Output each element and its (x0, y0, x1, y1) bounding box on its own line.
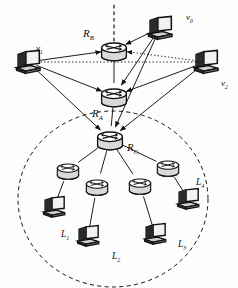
host-icon-l3[interactable] (145, 224, 166, 245)
link-v1-RB (37, 52, 101, 61)
router-icon-lr4[interactable] (157, 161, 178, 176)
link-LR2-L2 (90, 198, 95, 227)
link-LR3-L3 (144, 196, 153, 225)
host-label-l3: L3 (178, 240, 186, 252)
node-layer (16, 16, 218, 246)
host-label-l4: L4 (196, 178, 204, 190)
router-icon-ra[interactable] (102, 89, 127, 107)
router-label-ra: RA (92, 108, 103, 122)
router-icon-lr3[interactable] (129, 179, 150, 194)
link-RC-LR2 (100, 151, 106, 174)
host-icon-l4[interactable] (178, 189, 199, 210)
router-label-rc: RC (127, 142, 138, 156)
link-v0-RA (121, 35, 155, 85)
link-LR1-L1 (57, 181, 64, 198)
router-label-rb: RB (83, 28, 94, 42)
router-icon-lr1[interactable] (57, 164, 78, 179)
host-icon-v0[interactable] (148, 16, 172, 39)
link-LR4-L4 (174, 177, 183, 191)
host-label-v2: v2 (221, 79, 228, 90)
link-v2-RB (127, 52, 197, 61)
host-icon-l1[interactable] (44, 197, 65, 218)
router-icon-rb[interactable] (102, 43, 127, 61)
router-icon-rc[interactable] (98, 132, 123, 150)
link-v2-RC (120, 68, 199, 131)
link-v1-RA (36, 65, 102, 91)
router-icon-lr2[interactable] (86, 180, 107, 195)
host-icon-l2[interactable] (78, 226, 99, 247)
link-RC-LR1 (78, 146, 100, 162)
host-icon-v2[interactable] (194, 50, 218, 73)
host-label-l1: L1 (61, 230, 69, 242)
host-label-v0: v0 (186, 13, 193, 24)
network-diagram: RBRARCv0v1v2L1L2L3L4 (0, 0, 238, 288)
host-label-l2: L2 (112, 252, 120, 264)
host-label-v1: v1 (36, 44, 43, 55)
